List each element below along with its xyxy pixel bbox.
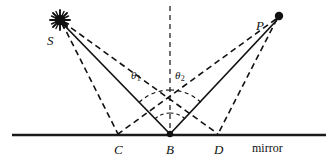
reflection-point-marker <box>167 131 173 137</box>
solid-ray-b-to-p <box>170 20 277 134</box>
label-source-s: S <box>47 34 54 47</box>
dashed-ray-p-to-d <box>218 19 277 134</box>
angle-arc-theta1 <box>138 90 170 103</box>
angle-arc-theta1-inner <box>154 113 170 120</box>
theta-1-subscript: 1 <box>136 74 140 83</box>
theta-2-subscript: 2 <box>180 74 184 83</box>
dashed-ray-p-to-c <box>118 19 276 134</box>
observer-point-dot <box>275 12 283 20</box>
label-point-c: C <box>114 143 123 156</box>
label-observer-p: P <box>256 19 264 32</box>
source-starburst-icon <box>50 10 70 30</box>
label-theta-2: θ2 <box>175 70 185 83</box>
reflection-diagram: S P θ1 θ2 C B D mirror <box>0 0 335 166</box>
label-point-b: B <box>166 143 174 156</box>
label-theta-1: θ1 <box>131 70 141 83</box>
label-point-d: D <box>214 143 223 156</box>
solid-ray-s-to-b <box>63 24 170 134</box>
dashed-ray-s-to-c <box>62 23 118 134</box>
angle-arc-theta2-inner <box>170 113 186 120</box>
label-mirror: mirror <box>252 142 283 154</box>
